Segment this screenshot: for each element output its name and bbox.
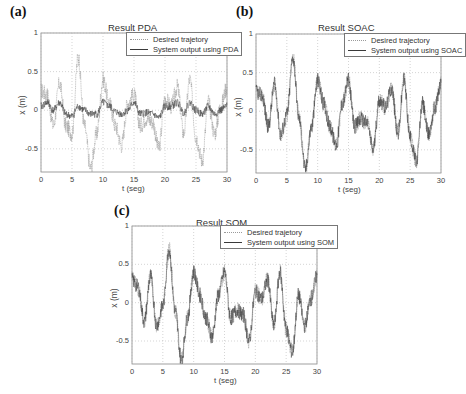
legend-label: System output using PDA [153,45,238,54]
legend-swatch-output [348,50,366,51]
x-tick-label: 25 [188,175,204,184]
x-tick-label: 15 [126,175,142,184]
x-tick-label: 30 [309,367,325,376]
x-tick-label: 5 [64,175,80,184]
x-tick-label: 15 [341,176,357,185]
y-tick-label: 0.5 [18,67,38,76]
x-tick-label: 0 [124,367,140,376]
x-tick-label: 25 [278,367,294,376]
legend-item-desired: Desired trajectory [348,35,462,45]
y-tick-label: 0.5 [233,68,253,77]
x-axis-label: t (seg) [122,184,145,193]
x-tick-label: 5 [279,176,295,185]
x-tick-label: 5 [155,367,171,376]
y-tick-label: 0.5 [109,259,129,268]
legend-item-desired: Desired trajetory [224,227,334,237]
legend-swatch-output [130,49,148,50]
legend-item-desired: Desired trajetory [130,34,238,44]
legend-label: System output using SOM [247,238,334,247]
x-tick-label: 15 [217,367,233,376]
legend-swatch-output [224,242,242,243]
legend: Desired trajetory System output using SO… [220,225,338,249]
legend-label: System output using SOAC [371,46,462,55]
y-tick-label: -0.5 [233,145,253,154]
y-tick-label: 1 [233,29,253,38]
x-axis-label: t (seg) [338,185,361,194]
y-tick-label: 0 [109,298,129,307]
x-tick-label: 10 [310,176,326,185]
x-tick-label: 0 [33,175,49,184]
x-tick-label: 30 [433,176,449,185]
x-tick-label: 10 [186,367,202,376]
legend-swatch-desired [130,39,148,40]
panel-c: (c) Result SOM x (m) t (seg) Desired tra… [100,195,340,394]
x-tick-label: 20 [371,176,387,185]
legend-item-output: System output using SOAC [348,45,462,55]
plot-area [230,0,463,195]
x-axis-label: t (seg) [214,376,237,385]
x-tick-label: 20 [247,367,263,376]
series-desired [256,54,441,173]
legend-label: Desired trajetory [247,228,302,237]
x-tick-label: 20 [157,175,173,184]
legend: Desired trajetory System output using PD… [126,32,242,56]
y-tick-label: 0 [18,105,38,114]
panel-a: (a) Result PDA x (m) t (seg) Desired tra… [0,0,232,195]
legend-swatch-desired [348,40,366,41]
y-tick-label: 1 [18,28,38,37]
x-tick-label: 0 [248,176,264,185]
legend-item-output: System output using PDA [130,44,238,54]
legend: Desired trajectory System output using S… [344,33,466,57]
legend-item-output: System output using SOM [224,237,334,247]
legend-label: Desired trajetory [153,35,208,44]
x-tick-label: 25 [402,176,418,185]
y-tick-label: 0 [233,106,253,115]
panel-b: (b) Result SOAC x (m) t (seg) Desired tr… [230,0,463,195]
legend-swatch-desired [224,232,242,233]
y-tick-label: -0.5 [18,144,38,153]
y-tick-label: 1 [109,221,129,230]
y-tick-label: -0.5 [109,336,129,345]
legend-label: Desired trajectory [371,36,430,45]
x-tick-label: 10 [95,175,111,184]
